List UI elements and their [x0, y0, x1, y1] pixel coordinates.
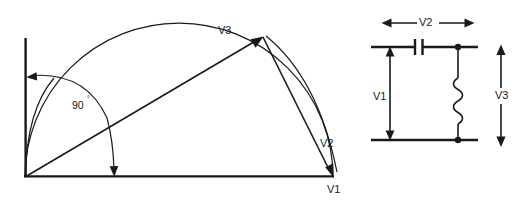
v3-vector-arrowhead	[251, 37, 264, 48]
v3-measure-arrowhead-up	[496, 45, 505, 56]
angle-arc-arrowhead-left	[26, 72, 37, 80]
v3-vector-line	[25, 40, 258, 178]
circuit-label-v2: V2	[419, 16, 432, 28]
figure-canvas: 90 ° V3 V2 V1 V2	[0, 0, 523, 201]
angle-arc-arrowhead-down	[110, 166, 119, 177]
inductor-coil	[454, 78, 463, 124]
circuit-label-v3: V3	[495, 89, 508, 101]
junction-dot-top	[455, 44, 461, 50]
angle-label: 90	[72, 99, 84, 111]
angle-degree-symbol: °	[87, 94, 90, 103]
minor-arc-right	[266, 36, 337, 172]
v2-measure-arrowhead-left	[382, 19, 392, 28]
v3-measure-arrowhead-down	[496, 137, 505, 148]
phasor-label-v2: V2	[320, 137, 333, 149]
circuit-label-v1: V1	[373, 90, 386, 102]
phasor-diagram-group: 90 ° V3 V2 V1	[24, 23, 340, 195]
v2-vector-line	[263, 37, 330, 172]
phasor-label-v1: V1	[327, 183, 340, 195]
phasor-label-v3: V3	[218, 24, 231, 36]
junction-dot-bottom	[455, 137, 461, 143]
v2-measure-arrowhead-right	[465, 19, 475, 28]
circuit-diagram-group: V2 V1	[371, 15, 515, 147]
figure-root: 90 ° V3 V2 V1 V2	[0, 0, 523, 201]
